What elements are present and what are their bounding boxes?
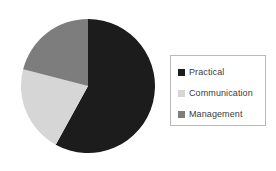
chart-legend: Practical Communication Management: [170, 55, 266, 126]
legend-item-management[interactable]: Management: [178, 104, 265, 124]
legend-item-label: Communication: [189, 88, 253, 98]
legend-item-label: Practical: [189, 67, 224, 77]
square-swatch-icon: [178, 69, 185, 76]
pie-plot-area: [21, 13, 155, 159]
legend-item-label: Management: [189, 109, 243, 119]
pie-slice-group: [21, 19, 155, 153]
square-swatch-icon: [178, 90, 185, 97]
square-swatch-icon: [178, 111, 185, 118]
legend-item-practical[interactable]: Practical: [178, 62, 265, 82]
pie-svg: [21, 13, 155, 159]
legend-item-communication[interactable]: Communication: [178, 83, 265, 103]
pie-chart-figure: Practical Communication Management: [0, 0, 276, 171]
